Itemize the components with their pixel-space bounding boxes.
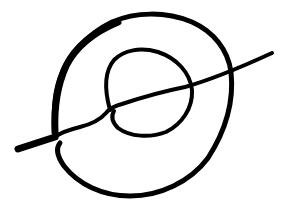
background (0, 0, 289, 212)
sketch-svg (0, 0, 289, 212)
sketch-canvas (0, 0, 289, 212)
